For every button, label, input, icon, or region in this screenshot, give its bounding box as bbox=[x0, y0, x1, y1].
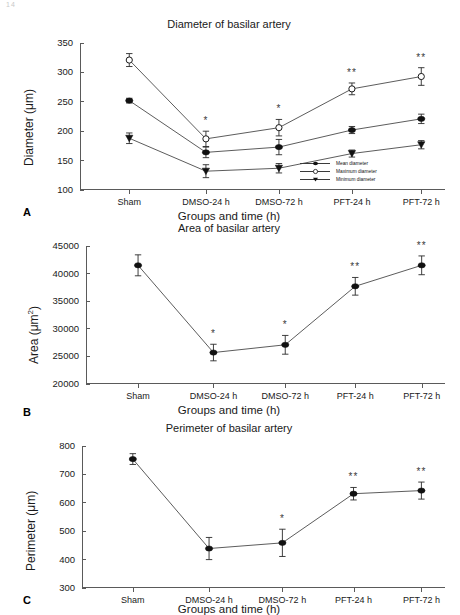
page-corner-mark: 14 bbox=[6, 1, 16, 8]
data-point-filled-circle bbox=[350, 491, 357, 496]
plot-area-a: 100150200250300350ShamDMSO-24 hDMSO-72 h… bbox=[80, 43, 445, 190]
x-tick-label: DMSO-72 h bbox=[261, 391, 309, 401]
legend-marker-open-circle bbox=[312, 168, 319, 175]
significance-marker: ** bbox=[417, 240, 427, 251]
data-point-filled-circle bbox=[134, 263, 141, 268]
data-point-open-circle bbox=[126, 57, 132, 63]
data-point-filled-circle bbox=[418, 116, 425, 121]
significance-marker: ** bbox=[347, 67, 357, 78]
y-tick-label: 150 bbox=[57, 155, 73, 166]
y-tick-label: 400 bbox=[59, 554, 75, 565]
significance-marker: * bbox=[203, 115, 208, 126]
significance-marker: ** bbox=[416, 466, 426, 477]
significance-marker: ** bbox=[416, 52, 426, 63]
data-point-filled-circle bbox=[282, 342, 289, 347]
data-point-filled-triangle-down bbox=[126, 135, 133, 141]
data-point-filled-circle bbox=[279, 540, 286, 545]
y-tick-label: 45000 bbox=[53, 240, 79, 251]
legend-marker-filled-triangle-down bbox=[312, 176, 319, 183]
y-axis-title-b: Area (μm2) bbox=[26, 306, 41, 364]
y-tick-label: 300 bbox=[59, 582, 75, 593]
data-point-open-circle bbox=[203, 136, 209, 142]
y-tick-label: 35000 bbox=[53, 295, 79, 306]
y-axis-title-c: Perimeter (μm) bbox=[24, 491, 38, 571]
y-tick-label: 800 bbox=[59, 440, 75, 451]
panel-letter-c: C bbox=[23, 594, 31, 606]
x-tick-label: DMSO-24 h bbox=[190, 391, 238, 401]
x-tick-mark bbox=[421, 588, 422, 592]
data-point-open-circle bbox=[276, 125, 282, 131]
x-tick-mark bbox=[355, 384, 356, 388]
data-point-filled-circle bbox=[418, 263, 425, 268]
series-layer bbox=[80, 43, 445, 190]
x-tick-mark bbox=[213, 384, 214, 388]
data-point-open-circle bbox=[418, 73, 424, 79]
y-tick-label: 500 bbox=[59, 525, 75, 536]
x-tick-mark bbox=[138, 384, 139, 388]
plot-area-b: 200002500030000350004000045000ShamDMSO-2… bbox=[86, 246, 445, 384]
y-tick-label: 350 bbox=[57, 37, 73, 48]
x-tick-label: Sham bbox=[126, 391, 150, 401]
significance-marker: * bbox=[280, 513, 285, 524]
x-tick-mark bbox=[282, 588, 283, 592]
series-line bbox=[129, 101, 421, 153]
y-tick-label: 300 bbox=[57, 66, 73, 77]
x-tick-label: DMSO-24 h bbox=[182, 197, 230, 207]
x-tick-mark bbox=[209, 588, 210, 592]
series-line bbox=[129, 60, 421, 139]
x-tick-mark bbox=[352, 190, 353, 194]
data-point-filled-circle bbox=[275, 144, 282, 149]
x-axis-title-c: Groups and time (h) bbox=[14, 603, 444, 615]
x-tick-mark bbox=[285, 384, 286, 388]
data-point-filled-circle bbox=[205, 546, 212, 551]
series-layer bbox=[82, 446, 445, 588]
data-point-filled-circle bbox=[352, 284, 359, 289]
x-tick-label: PFT-24 h bbox=[337, 391, 374, 401]
data-point-filled-circle bbox=[202, 150, 209, 155]
chart-title-c: Perimeter of basilar artery bbox=[14, 422, 444, 434]
y-tick-label: 600 bbox=[59, 497, 75, 508]
series-layer bbox=[86, 246, 445, 384]
x-tick-mark bbox=[422, 384, 423, 388]
data-point-filled-circle bbox=[418, 488, 425, 493]
x-tick-label: PFT-72 h bbox=[403, 197, 440, 207]
legend-label: Minimum diameter bbox=[336, 175, 375, 184]
significance-marker: ** bbox=[349, 471, 359, 482]
plot-area-c: 300400500600700800ShamDMSO-24 hDMSO-72 h… bbox=[82, 446, 445, 588]
significance-marker: ** bbox=[350, 261, 360, 272]
y-axis-title-a: Diameter (μm) bbox=[22, 89, 36, 166]
panel-b-area: Area of basilar artery Area (μm2) 200002… bbox=[0, 214, 460, 406]
x-tick-mark bbox=[206, 190, 207, 194]
data-point-filled-circle bbox=[126, 98, 133, 103]
panel-a-diameter: Diameter of basilar artery Diameter (μm)… bbox=[0, 14, 460, 209]
data-point-filled-circle bbox=[210, 350, 217, 355]
series-line bbox=[133, 459, 422, 548]
x-tick-mark bbox=[354, 588, 355, 592]
x-tick-mark bbox=[421, 190, 422, 194]
chart-title-b: Area of basilar artery bbox=[14, 222, 444, 234]
y-tick-label: 700 bbox=[59, 468, 75, 479]
chart-title-a: Diameter of basilar artery bbox=[14, 18, 444, 30]
y-tick-label: 20000 bbox=[53, 378, 79, 389]
x-tick-label: DMSO-72 h bbox=[255, 197, 303, 207]
panel-c-perimeter: Perimeter of basilar artery Perimeter (μ… bbox=[0, 414, 460, 611]
data-point-filled-circle bbox=[348, 127, 355, 132]
data-point-filled-circle bbox=[129, 456, 136, 461]
x-tick-label: Sham bbox=[118, 197, 142, 207]
significance-marker: * bbox=[276, 103, 281, 114]
series-line bbox=[138, 265, 422, 352]
significance-marker: * bbox=[283, 319, 288, 330]
significance-marker: * bbox=[211, 328, 216, 339]
y-tick-label: 200 bbox=[57, 125, 73, 136]
x-tick-mark bbox=[133, 588, 134, 592]
series-line bbox=[129, 138, 421, 171]
x-tick-label: PFT-24 h bbox=[333, 197, 370, 207]
y-tick-label: 100 bbox=[57, 184, 73, 195]
x-tick-mark bbox=[129, 190, 130, 194]
y-tick-label: 250 bbox=[57, 96, 73, 107]
x-tick-label: PFT-72 h bbox=[403, 391, 440, 401]
x-tick-mark bbox=[279, 190, 280, 194]
y-tick-label: 40000 bbox=[53, 268, 79, 279]
y-tick-label: 25000 bbox=[53, 350, 79, 361]
